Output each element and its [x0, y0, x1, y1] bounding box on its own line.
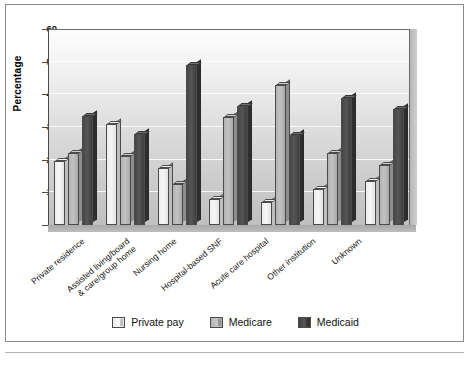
bar-front-face	[327, 153, 338, 225]
bar-front-face	[186, 65, 197, 225]
legend-label: Private pay	[131, 316, 184, 328]
bar-group	[204, 29, 256, 225]
bar-front-face	[289, 135, 300, 225]
bar-group	[256, 29, 308, 225]
bar-front-face	[209, 199, 220, 225]
legend-label: Medicaid	[317, 316, 359, 328]
bar-group	[359, 29, 411, 225]
bar-front-face	[379, 165, 390, 225]
bar-side-face	[248, 100, 252, 222]
chart-page: Percentage 6050403020100 Private residen…	[0, 0, 471, 365]
bar-side-face	[352, 92, 356, 222]
bar[interactable]	[106, 124, 117, 225]
bar[interactable]	[313, 189, 324, 225]
bottom-divider	[5, 352, 464, 353]
bar-side-face	[197, 59, 201, 222]
bar-group	[308, 29, 360, 225]
bar-front-face	[393, 109, 404, 225]
bar[interactable]	[275, 85, 286, 225]
bar-group	[152, 29, 204, 225]
bar[interactable]	[365, 181, 376, 225]
bar[interactable]	[172, 184, 183, 225]
bar[interactable]	[327, 153, 338, 225]
bar-front-face	[54, 161, 65, 225]
legend-swatch	[112, 317, 125, 328]
bar[interactable]	[393, 109, 404, 225]
bar-group	[101, 29, 153, 225]
legend-item[interactable]: Medicaid	[298, 316, 359, 328]
bar[interactable]	[209, 199, 220, 225]
bar-side-face	[300, 130, 304, 222]
bar-front-face	[275, 85, 286, 225]
legend-swatch	[210, 317, 223, 328]
bar-side-face	[145, 128, 149, 222]
bar-side-face	[404, 104, 408, 222]
bar-front-face	[158, 168, 169, 225]
legend-item[interactable]: Medicare	[210, 316, 272, 328]
bar-front-face	[237, 106, 248, 225]
bar[interactable]	[158, 168, 169, 225]
bar-group	[49, 29, 101, 225]
bar[interactable]	[237, 106, 248, 225]
bar[interactable]	[82, 116, 93, 225]
plot-area	[48, 29, 410, 225]
bar-front-face	[341, 98, 352, 225]
bar[interactable]	[134, 134, 145, 225]
legend-label: Medicare	[229, 316, 272, 328]
bar-front-face	[120, 156, 131, 225]
bar-front-face	[134, 134, 145, 225]
bar[interactable]	[289, 135, 300, 225]
plot-floor	[48, 225, 416, 232]
bar[interactable]	[54, 161, 65, 225]
bar-front-face	[313, 189, 324, 225]
bar-front-face	[82, 116, 93, 225]
bar-front-face	[68, 153, 79, 225]
bar[interactable]	[68, 153, 79, 225]
bar[interactable]	[261, 202, 272, 225]
bar-side-face	[93, 110, 97, 222]
bar-front-face	[106, 124, 117, 225]
legend-swatch	[298, 317, 311, 328]
bar-front-face	[365, 181, 376, 225]
bar[interactable]	[120, 156, 131, 225]
bar-front-face	[172, 184, 183, 225]
chart-legend: Private payMedicareMedicaid	[0, 316, 471, 328]
bar[interactable]	[223, 117, 234, 225]
bar[interactable]	[379, 165, 390, 225]
bar-front-face	[261, 202, 272, 225]
bar-front-face	[223, 117, 234, 225]
y-axis-title: Percentage	[12, 34, 23, 134]
bar[interactable]	[186, 65, 197, 225]
legend-item[interactable]: Private pay	[112, 316, 184, 328]
bar[interactable]	[341, 98, 352, 225]
